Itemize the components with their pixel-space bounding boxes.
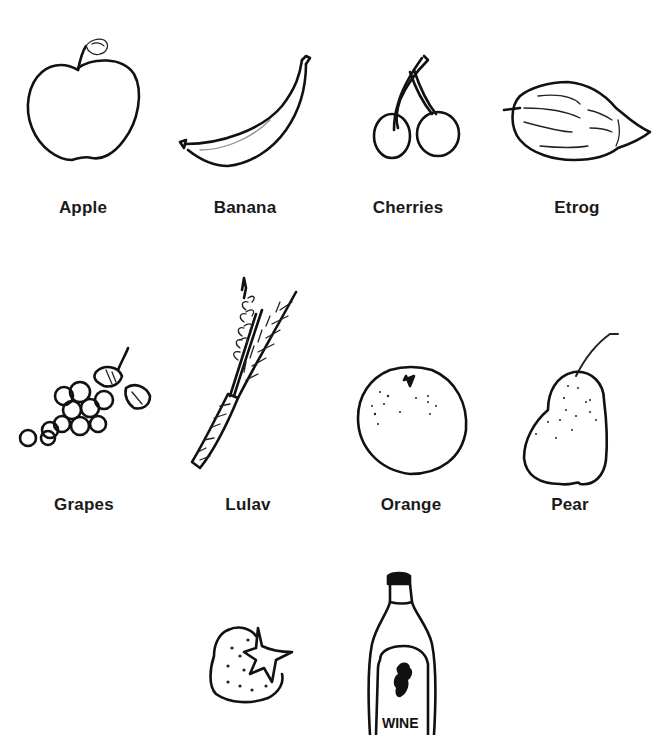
- wine-label-text: WINE: [382, 715, 419, 731]
- wine-bottle-drawing-icon: WINE: [0, 0, 657, 735]
